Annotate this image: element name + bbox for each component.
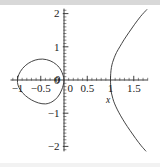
plot-container: −1−0.500.511.5210−1−20 x bbox=[0, 0, 160, 167]
axis-group bbox=[11, 9, 148, 152]
x-tick-label: 0.5 bbox=[80, 82, 94, 94]
x-tick-label: −1 bbox=[12, 82, 24, 94]
x-axis-label: x bbox=[105, 95, 111, 105]
x-tick-label: 1 bbox=[108, 82, 114, 94]
y-zero-tick-label: 0 bbox=[55, 73, 61, 85]
y-tick-label: −1 bbox=[48, 107, 60, 119]
x-tick-label: 1.5 bbox=[127, 82, 141, 94]
y-tick-label: 1 bbox=[54, 41, 60, 53]
curve-right-branch-upper bbox=[111, 10, 147, 80]
y-tick-label: 2 bbox=[54, 7, 60, 19]
curve-plot-figure: −1−0.500.511.5210−1−20 x bbox=[0, 0, 160, 167]
x-tick-label: −0.5 bbox=[31, 82, 51, 94]
y-tick-label: −2 bbox=[48, 140, 60, 152]
x-tick-label: 0 bbox=[68, 82, 74, 94]
